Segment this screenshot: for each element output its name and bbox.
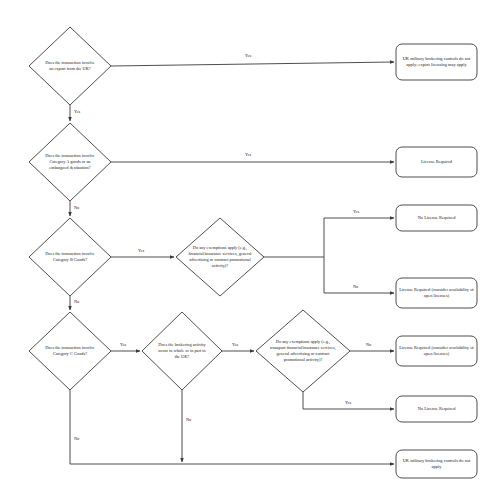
edge-d5-no <box>70 390 394 464</box>
decision-category-a[interactable] <box>29 123 111 201</box>
decision-brokering-in-uk[interactable] <box>142 312 222 390</box>
edge-d7-yes <box>303 392 394 409</box>
terminal-no-controls-export-licensing[interactable] <box>396 44 477 80</box>
decision-category-b[interactable] <box>29 218 111 296</box>
terminal-no-license-required-c[interactable] <box>396 396 477 422</box>
decision-exemptions-category-b[interactable] <box>176 218 264 296</box>
terminal-no-controls[interactable] <box>396 450 477 478</box>
terminal-no-license-required-b[interactable] <box>396 205 477 231</box>
terminal-license-open-c[interactable] <box>396 336 477 366</box>
edge-d4-no <box>324 257 394 293</box>
decision-exemptions-category-c[interactable] <box>256 310 350 392</box>
decision-export-from-uk[interactable] <box>29 27 111 105</box>
decision-category-c[interactable] <box>29 312 111 390</box>
flowchart-graphics <box>0 0 487 499</box>
edge-d1-yes <box>111 62 394 66</box>
flowchart-canvas: Does the transaction involve an export f… <box>0 0 487 499</box>
terminal-license-open-b[interactable] <box>396 278 477 308</box>
edge-d4-yes <box>324 218 394 257</box>
terminal-license-required[interactable] <box>396 147 477 177</box>
